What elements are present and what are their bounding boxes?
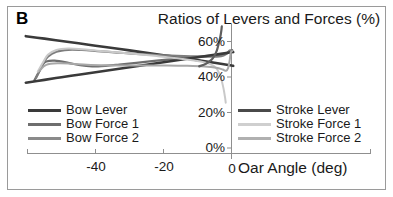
legend-swatch-stroke-lever	[238, 109, 271, 112]
legend-swatch-bow-force-2	[28, 137, 61, 140]
ytick-label-40: 40%	[181, 70, 225, 84]
legend-swatch-stroke-force-1	[238, 123, 271, 126]
ytick-label-20: 20%	[181, 106, 225, 120]
ytick-label-0: 0%	[181, 141, 225, 155]
ytick-label-60: 60%	[181, 35, 225, 49]
legend-swatch-stroke-force-2	[238, 137, 271, 140]
legend-swatch-bow-lever	[28, 109, 61, 112]
x-axis-title: Oar Angle (deg)	[238, 160, 347, 176]
legend-label-bow-force-2: Bow Force 2	[66, 131, 139, 145]
xtick-label-minus40: -40	[76, 160, 116, 174]
legend-swatch-bow-force-1	[28, 123, 61, 126]
xtick-label-minus20: -20	[144, 160, 184, 174]
chart-figure: B Ratios of Levers and Forces (%) 60% 40…	[0, 0, 393, 197]
legend-label-stroke-force-2: Stroke Force 2	[276, 131, 361, 145]
